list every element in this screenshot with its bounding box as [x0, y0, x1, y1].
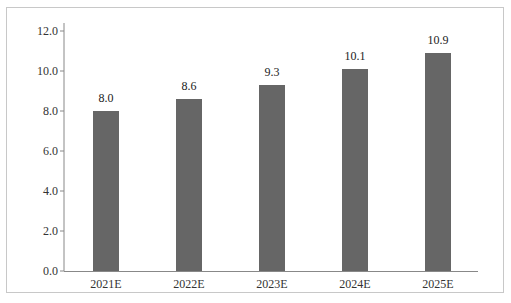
y-tick-label: 8.0 [43, 104, 58, 118]
y-tick-label: 12.0 [37, 24, 58, 38]
bar-value-label: 10.1 [345, 49, 366, 63]
bar-value-label: 9.3 [265, 65, 280, 79]
y-tick-label: 0.0 [43, 264, 58, 278]
bar [176, 99, 202, 271]
bar-value-label: 8.0 [99, 91, 114, 105]
x-tick-label: 2024E [339, 277, 370, 291]
x-tick-label: 2021E [90, 277, 121, 291]
x-tick-label: 2025E [422, 277, 453, 291]
bar [93, 111, 119, 271]
bar [425, 53, 451, 271]
bar-chart: 0.02.04.06.08.010.012.08.02021E8.62022E9… [0, 0, 511, 303]
bar [259, 85, 285, 271]
y-tick-label: 10.0 [37, 64, 58, 78]
y-tick-label: 2.0 [43, 224, 58, 238]
x-tick-label: 2022E [173, 277, 204, 291]
x-tick-label: 2023E [256, 277, 287, 291]
bar-value-label: 8.6 [182, 79, 197, 93]
bar-value-label: 10.9 [428, 33, 449, 47]
y-tick-label: 4.0 [43, 184, 58, 198]
bar [342, 69, 368, 271]
y-tick-label: 6.0 [43, 144, 58, 158]
